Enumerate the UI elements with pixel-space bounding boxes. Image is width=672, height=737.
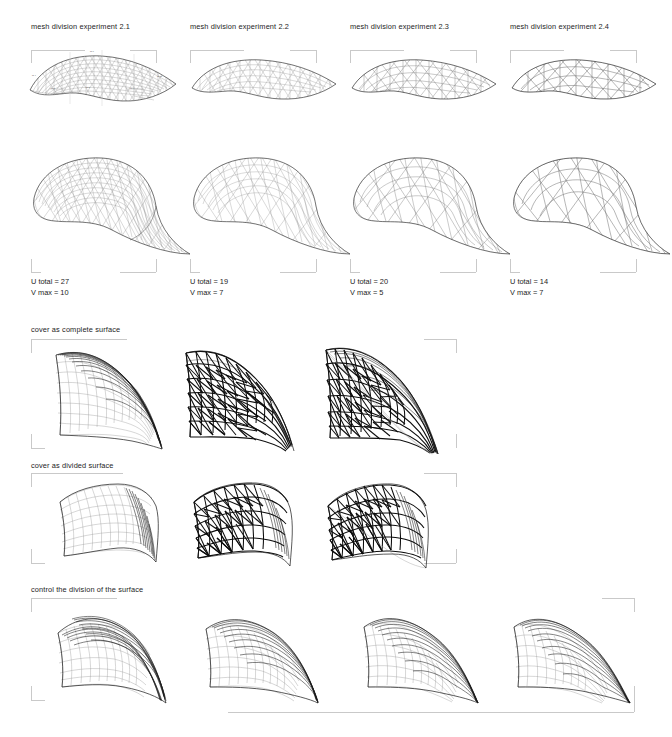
surface-divided-triangulated xyxy=(170,474,302,570)
division-control-1 xyxy=(36,605,166,703)
v-max-4: V max = 7 xyxy=(510,288,548,299)
section-label-1: cover as complete surface xyxy=(31,325,120,334)
metrics-column-4: U total = 14 V max = 7 xyxy=(510,277,548,298)
mesh-plan-4 xyxy=(506,52,666,110)
v-max-3: V max = 5 xyxy=(350,288,388,299)
section-label-3: control the division of the surface xyxy=(31,585,143,594)
surface-complete-dense xyxy=(306,336,438,454)
surface-divided-dense xyxy=(308,474,440,570)
u-total-1: U total = 27 xyxy=(31,277,69,288)
column-title-1: mesh division experiment 2.1 xyxy=(31,22,130,31)
surface-complete-triangulated xyxy=(168,341,296,453)
u-total-2: U total = 19 xyxy=(190,277,228,288)
v-max-1: V max = 10 xyxy=(31,288,69,299)
v-max-2: V max = 7 xyxy=(190,288,228,299)
mesh-plan-2 xyxy=(186,52,346,110)
metrics-column-2: U total = 19 V max = 7 xyxy=(190,277,228,298)
division-control-2 xyxy=(188,605,318,703)
u-total-4: U total = 14 xyxy=(510,277,548,288)
mesh-perspective-2 xyxy=(186,150,354,262)
column-title-4: mesh division experiment 2.4 xyxy=(510,22,609,31)
column-title-3: mesh division experiment 2.3 xyxy=(350,22,449,31)
surface-complete-smooth xyxy=(36,341,164,451)
design-sheet: mesh division experiment 2.1 mesh divisi… xyxy=(0,0,672,737)
mesh-perspective-4 xyxy=(506,150,672,262)
division-control-4 xyxy=(500,605,630,703)
svg-text:id 6: id 6 xyxy=(90,50,95,53)
section-label-2: cover as divided surface xyxy=(31,461,114,470)
mesh-perspective-3 xyxy=(346,150,514,262)
u-total-3: U total = 20 xyxy=(350,277,388,288)
metrics-column-3: U total = 20 V max = 5 xyxy=(350,277,388,298)
svg-text:id 5: id 5 xyxy=(86,86,91,89)
surface-divided-smooth xyxy=(38,476,166,566)
svg-text:id 4: id 4 xyxy=(32,74,37,77)
svg-text:id 9: id 9 xyxy=(130,87,135,90)
svg-text:id 3: id 3 xyxy=(51,87,56,90)
metrics-column-1: U total = 27 V max = 10 xyxy=(31,277,69,298)
mesh-plan-3 xyxy=(346,52,506,110)
mesh-plan-1: id 6 id 4 id 10 id 5 id 3 id 9 xyxy=(26,46,191,114)
mesh-perspective-1 xyxy=(26,150,194,262)
svg-text:id 10: id 10 xyxy=(157,75,163,78)
division-control-3 xyxy=(348,605,478,703)
column-title-2: mesh division experiment 2.2 xyxy=(190,22,289,31)
